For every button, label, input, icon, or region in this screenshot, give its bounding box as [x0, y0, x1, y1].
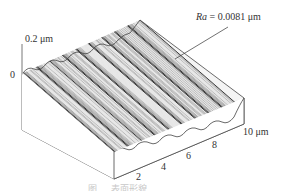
x-tick-2: 2: [136, 171, 141, 182]
svg-text:Ra = 0.0081 μm: Ra = 0.0081 μm: [195, 11, 261, 22]
x-tick-4: 4: [161, 161, 166, 172]
ra-annotation: Ra = 0.0081 μm: [175, 11, 261, 59]
surface-roughness-chart: 0.2 μm 0 2 4 6 8 10 μm: [0, 0, 281, 191]
ra-value: = 0.0081 μm: [207, 11, 261, 22]
x-tick-8: 8: [212, 139, 217, 150]
x-tick-6: 6: [186, 150, 191, 161]
figure-caption: 图 … 表面形貌: [88, 183, 147, 191]
z-axis-max-label: 0.2 μm: [25, 33, 53, 44]
z-axis-zero-label: 0: [10, 69, 15, 80]
x-tick-10: 10 μm: [243, 126, 269, 137]
ra-symbol: Ra: [195, 11, 207, 22]
